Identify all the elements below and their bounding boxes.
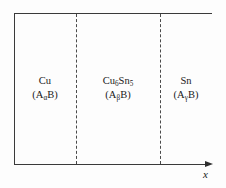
phase-formula-subscript-cu6sn5: β (116, 94, 120, 102)
phase-name-sn: Sn (160, 74, 212, 88)
x-axis-arrow-icon (205, 161, 213, 167)
top-border-line (14, 13, 212, 14)
phase-name-subscript-5: 5 (130, 80, 134, 88)
phase-name-subscript-6: 6 (115, 80, 119, 88)
phase-name-cu: Cu (14, 74, 76, 88)
phase-region-label-cu: Cu (AαB) (14, 74, 76, 102)
phase-formula-sn: (AγB) (160, 88, 212, 102)
diffusion-couple-diagram: Cu (AαB) Cu6Sn5 (AβB) Sn (AγB) x (0, 0, 226, 188)
phase-region-label-cu6sn5: Cu6Sn5 (AβB) (76, 74, 160, 102)
phase-region-label-sn: Sn (AγB) (160, 74, 212, 102)
x-axis-label: x (203, 168, 208, 180)
phase-name-cu6sn5: Cu6Sn5 (76, 74, 160, 88)
x-axis-line (14, 164, 210, 165)
phase-formula-cu: (AαB) (14, 88, 76, 102)
phase-formula-subscript-cu: α (43, 94, 47, 102)
phase-formula-subscript-sn: γ (185, 94, 188, 102)
phase-formula-cu6sn5: (AβB) (76, 88, 160, 102)
